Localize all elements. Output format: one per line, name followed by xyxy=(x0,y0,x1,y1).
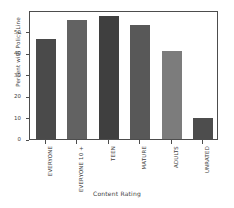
x-tick-mark xyxy=(45,140,46,144)
bar-teen xyxy=(99,16,119,139)
x-tick-mark xyxy=(76,140,77,144)
bar-mature xyxy=(130,25,150,139)
y-tick-label: 0 xyxy=(0,137,21,142)
y-tick-label: 40 xyxy=(0,51,21,56)
x-tick-mark xyxy=(108,140,109,144)
y-tick-label: 30 xyxy=(0,73,21,78)
x-tick-mark xyxy=(202,140,203,144)
bar-series xyxy=(30,12,217,139)
x-tick-label: ADULTS xyxy=(173,146,179,168)
plot-area xyxy=(29,11,218,140)
x-tick-label: TEEN xyxy=(110,146,116,161)
x-tick-label: MATURE xyxy=(141,146,147,170)
x-tick-mark xyxy=(171,140,172,144)
bar-everyone xyxy=(36,39,56,139)
x-axis-label: Content Rating xyxy=(0,190,234,197)
x-tick-label: EVERYONE xyxy=(47,146,53,176)
y-tick-label: 50 xyxy=(0,30,21,35)
x-tick-mark xyxy=(139,140,140,144)
bar-unrated xyxy=(193,118,213,139)
y-tick-label: 20 xyxy=(0,94,21,99)
x-tick-label: EVERYONE 10 + xyxy=(78,146,84,192)
bar-everyone-10 xyxy=(67,20,87,139)
x-tick-label: UNRATED xyxy=(204,146,210,173)
bar-adults xyxy=(162,51,182,139)
bar-chart-figure: Percent with Policy Line 01020304050 EVE… xyxy=(0,0,234,208)
y-tick-label: 10 xyxy=(0,116,21,121)
